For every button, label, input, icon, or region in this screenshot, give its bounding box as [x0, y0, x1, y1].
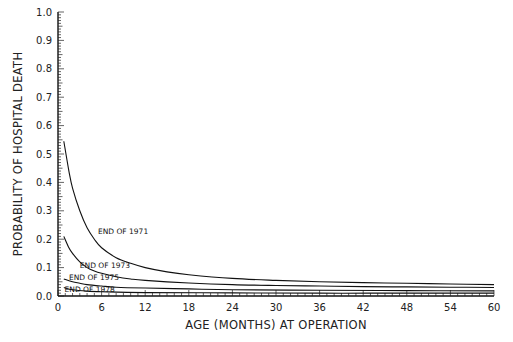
y-axis: 0.00.10.20.30.40.50.60.70.80.91.0	[36, 7, 64, 302]
curves	[64, 141, 494, 293]
y-tick-label: 0.4	[36, 177, 52, 188]
y-tick-label: 0.3	[36, 205, 52, 216]
y-axis-title: PROBABILITY OF HOSPITAL DEATH	[11, 52, 25, 257]
y-tick-label: 0.7	[36, 92, 52, 103]
x-axis-title: AGE (MONTHS) AT OPERATION	[185, 318, 367, 332]
y-tick-label: 1.0	[36, 7, 52, 18]
y-tick-label: 0.9	[36, 35, 52, 46]
x-tick-label: 48	[400, 302, 413, 313]
x-tick-label: 6	[98, 302, 104, 313]
x-tick-label: 54	[444, 302, 457, 313]
y-tick-label: 0.2	[36, 234, 52, 245]
curve-label: END OF 1973	[80, 261, 130, 270]
line-chart: 0.00.10.20.30.40.50.60.70.80.91.0 061218…	[0, 0, 513, 342]
curve-label: END OF 1971	[98, 227, 148, 236]
x-tick-label: 30	[270, 302, 283, 313]
x-tick-label: 18	[182, 302, 195, 313]
curve-labels: END OF 1971END OF 1973END OF 1975END OF …	[65, 227, 149, 294]
curve-label: END OF 1978	[65, 285, 115, 294]
x-tick-label: 36	[313, 302, 326, 313]
x-tick-label: 0	[55, 302, 61, 313]
x-tick-label: 24	[226, 302, 239, 313]
y-tick-label: 0.8	[36, 63, 52, 74]
x-tick-label: 42	[357, 302, 370, 313]
y-tick-label: 0.6	[36, 120, 52, 131]
x-tick-label: 12	[139, 302, 152, 313]
y-tick-label: 0.5	[36, 149, 52, 160]
y-tick-label: 0.1	[36, 262, 52, 273]
y-tick-label: 0.0	[36, 291, 52, 302]
curve-label: END OF 1975	[69, 273, 119, 282]
x-tick-label: 60	[488, 302, 501, 313]
